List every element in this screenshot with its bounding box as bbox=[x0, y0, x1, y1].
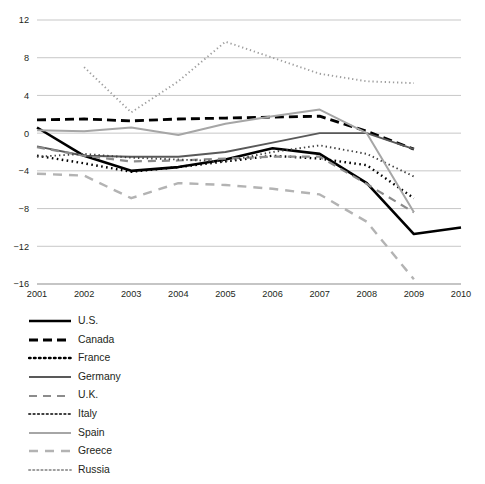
legend-line-swatch-icon bbox=[28, 333, 72, 347]
x-axis-tick-label: 2006 bbox=[262, 289, 282, 299]
legend-item-label: Italy bbox=[78, 409, 97, 419]
x-axis-tick-label: 2004 bbox=[168, 289, 188, 299]
y-axis-tick-label: −12 bbox=[13, 242, 29, 252]
legend-item-label: Spain bbox=[78, 428, 105, 438]
legend-line-swatch-icon bbox=[28, 426, 72, 440]
legend-item-label: France bbox=[78, 353, 110, 363]
line-chart: 12840−4−8−12−16 200120022003200420052006… bbox=[0, 0, 485, 300]
legend-item-label: Russia bbox=[78, 465, 110, 475]
legend-line-swatch-icon bbox=[28, 370, 72, 384]
y-axis-tick-labels: 12840−4−8−12−16 bbox=[13, 15, 29, 289]
legend-item-label: U.K. bbox=[78, 390, 98, 400]
legend-line-swatch-icon bbox=[28, 407, 72, 421]
series-line-russia bbox=[84, 42, 414, 113]
x-axis-tick-label: 2005 bbox=[215, 289, 235, 299]
x-axis-tick-label: 2010 bbox=[451, 289, 471, 299]
x-axis-tick-label: 2001 bbox=[27, 289, 47, 299]
y-axis-tick-label: 4 bbox=[24, 91, 29, 101]
legend-line-swatch-icon bbox=[28, 463, 72, 477]
chart-page: 12840−4−8−12−16 200120022003200420052006… bbox=[0, 0, 485, 484]
gridlines-group bbox=[37, 20, 461, 284]
data-series-group bbox=[37, 42, 461, 280]
legend-item-u-k[interactable]: U.K. bbox=[28, 386, 288, 405]
series-line-greece bbox=[37, 174, 414, 280]
y-axis-tick-label: −8 bbox=[19, 204, 29, 214]
legend-line-swatch-icon bbox=[28, 389, 72, 403]
legend-item-greece[interactable]: Greece bbox=[28, 442, 288, 461]
y-axis-tick-label: −16 bbox=[13, 279, 29, 289]
series-line-germany bbox=[37, 133, 414, 157]
legend-item-russia[interactable]: Russia bbox=[28, 461, 288, 480]
y-axis-tick-label: 12 bbox=[19, 15, 29, 25]
legend-line-swatch-icon bbox=[28, 351, 72, 365]
y-axis-tick-label: −4 bbox=[19, 166, 29, 176]
x-axis-tick-label: 2008 bbox=[357, 289, 377, 299]
legend-item-label: Germany bbox=[78, 372, 121, 382]
legend-item-label: Greece bbox=[78, 446, 112, 456]
legend-item-italy[interactable]: Italy bbox=[28, 405, 288, 424]
x-axis-tick-label: 2007 bbox=[309, 289, 329, 299]
legend-item-spain[interactable]: Spain bbox=[28, 424, 288, 443]
y-axis-tick-label: 0 bbox=[24, 129, 29, 139]
legend-line-swatch-icon bbox=[28, 444, 72, 458]
x-axis-tick-label: 2002 bbox=[74, 289, 94, 299]
x-axis-tick-labels: 2001200220032004200520062007200820092010 bbox=[27, 289, 471, 299]
legend-item-label: U.S. bbox=[78, 316, 98, 326]
legend-item-germany[interactable]: Germany bbox=[28, 368, 288, 387]
x-axis-tick-label: 2009 bbox=[404, 289, 424, 299]
legend-item-france[interactable]: France bbox=[28, 349, 288, 368]
chart-canvas: 12840−4−8−12−16 200120022003200420052006… bbox=[0, 0, 485, 300]
legend-item-canada[interactable]: Canada bbox=[28, 331, 288, 350]
chart-legend: U.S.CanadaFranceGermanyU.K.ItalySpainGre… bbox=[28, 312, 288, 479]
legend-line-swatch-icon bbox=[28, 314, 72, 328]
series-line-u-k bbox=[37, 147, 414, 212]
y-axis-tick-label: 8 bbox=[24, 53, 29, 63]
legend-item-label: Canada bbox=[78, 335, 114, 345]
legend-item-u-s[interactable]: U.S. bbox=[28, 312, 288, 331]
x-axis-tick-label: 2003 bbox=[121, 289, 141, 299]
